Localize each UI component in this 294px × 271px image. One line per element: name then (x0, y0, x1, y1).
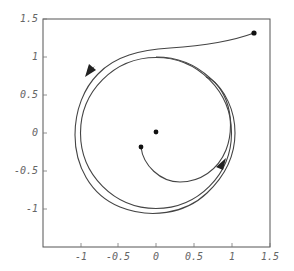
x-tick-label: -0.5 (106, 251, 130, 262)
inner-start-point-marker (139, 145, 144, 150)
origin-fixed-point-marker (154, 130, 159, 135)
x-axis: -1 -0.5 0 0.5 1 1.5 (75, 243, 279, 262)
x-tick-label: 0.5 (185, 251, 203, 262)
y-tick-label: 1.5 (20, 13, 38, 24)
outer-start-point-marker (251, 30, 256, 35)
y-axis: 1.5 1 0.5 0 -0.5 -1 (14, 13, 47, 214)
y-tick-label: 0.5 (20, 89, 38, 100)
y-tick-label: -1 (26, 203, 38, 214)
chart-canvas: 1.5 1 0.5 0 -0.5 -1 -1 -0.5 0 0.5 1 1.5 (0, 0, 294, 271)
x-tick-label: 0 (153, 251, 159, 262)
phase-portrait-chart: 1.5 1 0.5 0 -0.5 -1 -1 -0.5 0 0.5 1 1.5 (0, 0, 294, 271)
y-tick-label: 1 (32, 51, 38, 62)
x-tick-label: -1 (75, 251, 87, 262)
x-tick-label: 1 (229, 251, 235, 262)
y-tick-label: -0.5 (14, 165, 38, 176)
y-tick-label: 0 (32, 127, 38, 138)
x-tick-label: 1.5 (261, 251, 279, 262)
arrow-down-left-icon (85, 64, 96, 77)
